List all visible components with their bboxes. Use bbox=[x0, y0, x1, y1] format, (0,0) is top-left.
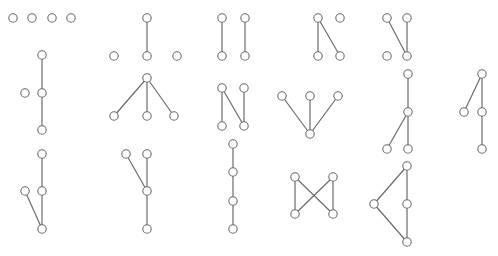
graph-edge bbox=[318, 18, 340, 56]
graph-vertex bbox=[67, 14, 75, 22]
graph-vertex bbox=[229, 225, 237, 233]
graph-vertex bbox=[329, 173, 337, 181]
graph-vertex bbox=[370, 200, 378, 208]
graph-vertex bbox=[404, 70, 412, 78]
graph-vertex bbox=[478, 108, 486, 116]
graph-edge bbox=[374, 204, 407, 242]
graph-vertex bbox=[240, 122, 248, 130]
graph-edge bbox=[387, 18, 407, 56]
graph-path-p3-plus-isolated-edges bbox=[318, 18, 340, 56]
graph-vertex bbox=[403, 14, 411, 22]
graph-vertex bbox=[229, 197, 237, 205]
graph-vertex bbox=[403, 162, 411, 170]
graph-vertex bbox=[218, 122, 226, 130]
graph-vertex bbox=[383, 145, 391, 153]
graph-vertex bbox=[28, 14, 36, 22]
graph-path-p3-plus-isolated-alt-edges bbox=[387, 18, 407, 56]
graph-cycle-c4-bowtie-edges bbox=[295, 177, 333, 214]
graph-vertex bbox=[329, 210, 337, 218]
graph-vertex bbox=[38, 150, 46, 158]
graph-vertex bbox=[110, 52, 118, 60]
graph-vertex bbox=[38, 126, 46, 134]
graph-vertex bbox=[122, 150, 130, 158]
graph-vertex bbox=[241, 14, 249, 22]
graph-two-disjoint-edges-edges bbox=[222, 18, 245, 56]
graph-edge bbox=[25, 191, 42, 229]
graph-diagram-canvas bbox=[0, 0, 498, 256]
graph-edge bbox=[387, 112, 408, 149]
graph-vertex bbox=[334, 92, 342, 100]
graph-vertex bbox=[241, 52, 249, 60]
graph-vertex bbox=[478, 145, 486, 153]
graph-vertex bbox=[21, 187, 29, 195]
graph-vertex bbox=[404, 108, 412, 116]
graph-edge bbox=[147, 78, 174, 116]
graph-vertex bbox=[306, 92, 314, 100]
graph-vertex bbox=[143, 112, 151, 120]
graph-vertex bbox=[38, 51, 46, 59]
graph-vertex bbox=[170, 112, 178, 120]
graph-vertex bbox=[314, 14, 322, 22]
graph-vertex bbox=[110, 112, 118, 120]
graph-vertex bbox=[403, 52, 411, 60]
graph-cycle-c4-triangle bbox=[370, 162, 411, 246]
graph-vertex bbox=[143, 14, 151, 22]
graph-vertex bbox=[9, 14, 17, 22]
graph-vertex bbox=[403, 238, 411, 246]
graph-vertex bbox=[143, 225, 151, 233]
graph-vertex bbox=[383, 14, 391, 22]
graph-vertex bbox=[306, 130, 314, 138]
graph-edge bbox=[282, 96, 310, 134]
graph-vertex bbox=[48, 14, 56, 22]
graph-vertex bbox=[218, 84, 226, 92]
graph-vertex bbox=[143, 187, 151, 195]
graph-vertex bbox=[38, 187, 46, 195]
graph-edge bbox=[126, 154, 147, 191]
graph-vertex bbox=[21, 89, 29, 97]
graph-edge bbox=[310, 96, 338, 134]
graph-vertex bbox=[478, 70, 486, 78]
graph-star-k13-edges bbox=[114, 78, 174, 116]
graph-vertex bbox=[336, 14, 344, 22]
graph-vertex bbox=[143, 150, 151, 158]
graph-edge bbox=[114, 78, 147, 116]
graph-cycle-c4-triangle-edges bbox=[374, 166, 407, 242]
graph-edge bbox=[374, 166, 407, 204]
graph-vertex bbox=[143, 52, 151, 60]
graph-vertex bbox=[278, 92, 286, 100]
graph-vertex bbox=[240, 84, 248, 92]
graph-vertex bbox=[229, 168, 237, 176]
nodes-layer bbox=[9, 14, 486, 246]
graph-edge bbox=[464, 74, 482, 112]
edges-layer bbox=[25, 18, 482, 242]
graph-vertex bbox=[291, 210, 299, 218]
graph-vertex bbox=[143, 74, 151, 82]
graph-vertex bbox=[336, 52, 344, 60]
graph-vertex bbox=[291, 173, 299, 181]
graph-vertex bbox=[383, 52, 391, 60]
graph-vertex bbox=[173, 52, 181, 60]
graph-empty-graph bbox=[9, 14, 75, 22]
graph-vertex bbox=[404, 145, 412, 153]
graph-single-edge bbox=[110, 14, 181, 60]
graph-vertex bbox=[218, 52, 226, 60]
graph-vertex bbox=[218, 14, 226, 22]
graph-star-k13 bbox=[110, 74, 178, 120]
graph-star-k13-inverted-edges bbox=[282, 96, 338, 134]
graph-path-p4-n-shape-edges bbox=[222, 88, 244, 126]
graph-vertex bbox=[38, 89, 46, 97]
graph-vertex bbox=[403, 200, 411, 208]
graph-vertex bbox=[460, 108, 468, 116]
graph-vertex bbox=[314, 52, 322, 60]
graph-vertex bbox=[229, 140, 237, 148]
graph-edge bbox=[222, 88, 244, 126]
graph-vertex bbox=[38, 225, 46, 233]
